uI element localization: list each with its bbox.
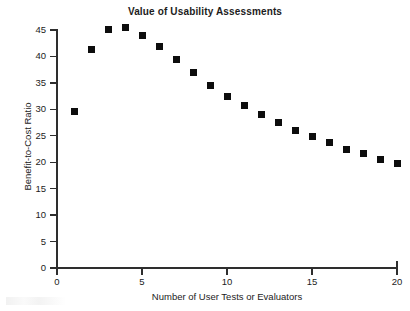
data-point bbox=[343, 146, 350, 153]
x-tick-mark bbox=[226, 269, 227, 275]
plot-area bbox=[57, 30, 397, 268]
data-point bbox=[394, 160, 401, 167]
data-point bbox=[207, 82, 214, 89]
data-point bbox=[224, 93, 231, 100]
data-point bbox=[241, 102, 248, 109]
data-point bbox=[377, 156, 384, 163]
chart-figure: Value of Usability Assessments 051015202… bbox=[0, 0, 410, 311]
data-point bbox=[173, 56, 180, 63]
y-tick-mark bbox=[50, 29, 56, 30]
x-tick-label: 10 bbox=[212, 277, 242, 287]
data-point bbox=[71, 108, 78, 115]
data-point bbox=[139, 32, 146, 39]
data-point bbox=[275, 119, 282, 126]
x-tick-label: 5 bbox=[127, 277, 157, 287]
y-tick-mark bbox=[50, 162, 56, 163]
y-tick-mark bbox=[50, 188, 56, 189]
data-point bbox=[156, 43, 163, 50]
data-point bbox=[309, 133, 316, 140]
y-tick-mark bbox=[50, 56, 56, 57]
y-tick-mark bbox=[50, 109, 56, 110]
data-point bbox=[326, 139, 333, 146]
x-tick-mark bbox=[396, 269, 397, 275]
y-tick-mark bbox=[50, 267, 56, 268]
data-point bbox=[122, 24, 129, 31]
scan-artifact bbox=[6, 297, 66, 305]
chart-title: Value of Usability Assessments bbox=[0, 6, 410, 17]
data-point bbox=[292, 127, 299, 134]
x-tick-label: 20 bbox=[382, 277, 410, 287]
x-tick-mark bbox=[56, 269, 57, 275]
y-tick-mark bbox=[50, 214, 56, 215]
y-axis-title: Benefit-to-Cost Ratio bbox=[22, 47, 33, 247]
y-tick-label: 45 bbox=[6, 25, 46, 35]
x-axis-title: Number of User Tests or Evaluators bbox=[57, 291, 397, 302]
y-tick-mark bbox=[50, 135, 56, 136]
data-point bbox=[105, 26, 112, 33]
data-point bbox=[360, 150, 367, 157]
y-tick-mark bbox=[50, 82, 56, 83]
y-tick-label: 0 bbox=[6, 263, 46, 273]
x-tick-label: 0 bbox=[42, 277, 72, 287]
data-point bbox=[88, 46, 95, 53]
y-tick-mark bbox=[50, 241, 56, 242]
x-tick-label: 15 bbox=[297, 277, 327, 287]
data-point bbox=[190, 69, 197, 76]
x-tick-mark bbox=[311, 269, 312, 275]
x-tick-mark bbox=[141, 269, 142, 275]
data-point bbox=[258, 111, 265, 118]
